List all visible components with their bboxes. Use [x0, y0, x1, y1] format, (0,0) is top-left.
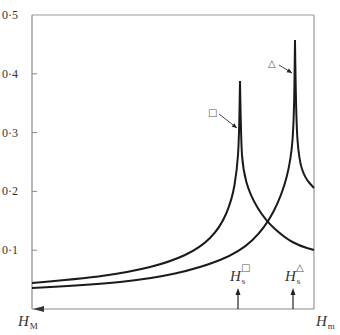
hs-superscript: △	[296, 262, 304, 273]
svg-text:HM: HM	[17, 313, 38, 331]
hs-superscript: □	[241, 262, 250, 273]
chart: 0·10·20·30·40·5 □△Hs□Hs△ HM Hm	[0, 0, 340, 335]
annotations: □△Hs□Hs△	[208, 58, 304, 309]
y-tick-label: 0·4	[2, 67, 18, 81]
curve-square-right	[240, 81, 314, 250]
series-marker-square-icon: □	[208, 107, 217, 118]
curve-triangle-right	[295, 40, 314, 188]
up-arrow-icon	[291, 288, 296, 295]
y-tick-label: 0·1	[2, 243, 18, 257]
up-arrow-icon	[236, 288, 241, 295]
series-marker-triangle-icon: △	[268, 58, 276, 69]
y-tick-label: 0·3	[2, 126, 18, 140]
y-tick-label: 0·2	[2, 184, 18, 198]
y-tick-label: 0·5	[2, 8, 18, 22]
x-axis-label-left: HM	[17, 313, 38, 331]
curves	[32, 40, 314, 288]
x-axis-label-right: Hm	[315, 313, 335, 331]
svg-text:Hm: Hm	[315, 313, 335, 331]
x-axis-arrow-icon	[33, 306, 44, 312]
curve-triangle-left	[32, 40, 295, 288]
